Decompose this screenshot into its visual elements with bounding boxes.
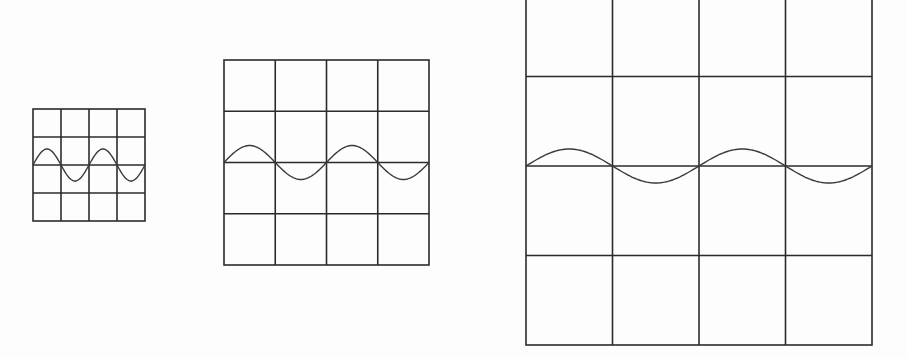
figure-canvas [0,0,906,358]
medium-oscilloscope-screen [224,60,429,265]
small-oscilloscope-screen [33,109,145,221]
large-oscilloscope-screen [526,0,872,345]
